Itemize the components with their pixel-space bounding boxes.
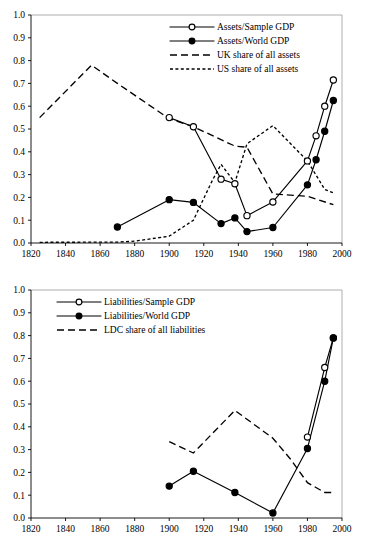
series-line	[40, 126, 334, 243]
y-tick-label: 0.4	[13, 147, 25, 157]
x-tick-label: 1880	[125, 524, 144, 534]
legend-label: LDC share of all liabilities	[104, 325, 206, 335]
y-tick-label: 0.2	[13, 193, 25, 203]
y-tick-label: 0.5	[13, 399, 25, 409]
y-tick-label: 1.0	[13, 285, 25, 295]
y-tick-label: 0.9	[13, 33, 25, 43]
y-tick-label: 0.7	[13, 354, 25, 364]
x-tick-label: 1880	[125, 249, 144, 259]
legend-label: UK share of all assets	[217, 50, 300, 60]
legend-marker-sample	[76, 299, 82, 305]
x-tick-label: 1960	[263, 524, 282, 534]
x-tick-label: 2000	[333, 249, 352, 259]
x-tick-label: 1900	[160, 249, 179, 259]
series-line	[117, 101, 333, 232]
plot-axes	[31, 15, 342, 243]
plot-frame	[31, 15, 342, 243]
series-marker	[244, 213, 250, 219]
x-tick-label: 1840	[56, 524, 75, 534]
y-tick-label: 0.1	[13, 491, 25, 501]
y-tick-label: 0.3	[13, 445, 25, 455]
series-marker	[330, 335, 336, 341]
series-marker	[322, 128, 328, 134]
y-tick-label: 0.4	[13, 422, 25, 432]
x-tick-label: 1940	[229, 249, 248, 259]
series-line	[40, 65, 334, 205]
legend-marker-sample	[189, 24, 195, 30]
y-tick-label: 0.9	[13, 308, 25, 318]
series-marker	[270, 224, 276, 230]
series-marker	[218, 221, 224, 227]
x-tick-label: 1900	[160, 524, 179, 534]
x-tick-label: 1840	[56, 249, 75, 259]
x-tick-label: 2000	[333, 524, 352, 534]
legend-marker-sample	[189, 38, 195, 44]
x-tick-label: 1920	[194, 524, 213, 534]
series-marker	[232, 215, 238, 221]
chart-legend: Assets/Sample GDPAssets/World GDPUK shar…	[170, 22, 300, 74]
series-marker	[313, 157, 319, 163]
y-tick-label: 0.1	[13, 216, 25, 226]
x-tick-label: 1860	[91, 524, 110, 534]
series-marker	[190, 468, 196, 474]
series-marker	[322, 378, 328, 384]
x-tick-label: 1860	[91, 249, 110, 259]
series-marker	[166, 483, 172, 489]
series-line	[169, 338, 333, 513]
series-marker	[244, 229, 250, 235]
y-tick-label: 0.8	[13, 331, 25, 341]
series-marker	[304, 182, 310, 188]
chart-panel-assets: 0.00.10.20.30.40.50.60.70.80.91.01820184…	[0, 0, 365, 278]
y-tick-label: 0.2	[13, 468, 25, 478]
y-tick-label: 0.3	[13, 170, 25, 180]
series-marker	[190, 199, 196, 205]
x-tick-label: 1960	[263, 249, 282, 259]
y-tick-label: 0.0	[13, 513, 25, 523]
series-marker	[304, 158, 310, 164]
series-marker	[322, 364, 328, 370]
liabilities-chart-svg: 0.00.10.20.30.40.50.60.70.80.91.01820184…	[0, 278, 365, 551]
legend-label: Liabilities/Sample GDP	[104, 297, 195, 307]
y-tick-label: 0.6	[13, 102, 25, 112]
y-tick-label: 0.7	[13, 79, 25, 89]
legend-label: Assets/World GDP	[217, 36, 289, 46]
series-marker	[232, 181, 238, 187]
series-marker	[166, 115, 172, 121]
assets-chart-svg: 0.00.10.20.30.40.50.60.70.80.91.01820184…	[0, 0, 365, 278]
y-tick-label: 0.5	[13, 124, 25, 134]
legend-label: Assets/Sample GDP	[217, 22, 294, 32]
chart-panel-liabilities: 0.00.10.20.30.40.50.60.70.80.91.01820184…	[0, 278, 365, 551]
x-tick-label: 1920	[194, 249, 213, 259]
legend-label: Liabilities/World GDP	[104, 311, 190, 321]
x-tick-label: 1820	[22, 249, 41, 259]
series-line	[169, 80, 333, 216]
x-tick-label: 1940	[229, 524, 248, 534]
x-tick-label: 1820	[22, 524, 41, 534]
chart-legend: Liabilities/Sample GDPLiabilities/World …	[57, 297, 206, 335]
series-marker	[330, 77, 336, 83]
series-marker	[270, 199, 276, 205]
series-marker	[270, 510, 276, 516]
series-marker	[190, 124, 196, 130]
series-marker	[232, 489, 238, 495]
y-tick-label: 0.8	[13, 56, 25, 66]
series-marker	[218, 176, 224, 182]
series-marker	[166, 197, 172, 203]
series-marker	[304, 445, 310, 451]
y-tick-label: 0.6	[13, 377, 25, 387]
plot-frame	[31, 290, 342, 518]
series-marker	[114, 224, 120, 230]
series-marker	[330, 97, 336, 103]
y-tick-label: 0.0	[13, 238, 25, 248]
series-marker	[313, 133, 319, 139]
legend-label: US share of all assets	[217, 64, 299, 74]
x-tick-label: 1980	[298, 524, 317, 534]
series-marker	[304, 434, 310, 440]
series-line	[307, 338, 333, 437]
plot-axes	[31, 290, 342, 518]
series-marker	[322, 103, 328, 109]
x-tick-label: 1980	[298, 249, 317, 259]
legend-marker-sample	[76, 313, 82, 319]
y-tick-label: 1.0	[13, 10, 25, 20]
figure-container: 0.00.10.20.30.40.50.60.70.80.91.01820184…	[0, 0, 365, 551]
